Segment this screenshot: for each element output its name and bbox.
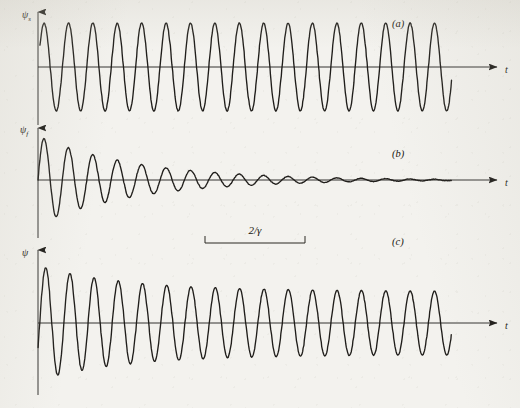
x-axis-label: t: [505, 64, 508, 75]
x-axis-label: t: [505, 320, 508, 331]
y-axis-label-subscript: s: [28, 15, 31, 23]
waveform-curve: [38, 138, 451, 216]
waveform-curve: [38, 268, 451, 375]
oscillation-figure: ψst(a)ψft(b)ψt(c) 2/γ: [0, 0, 520, 408]
panel-tag: (c): [392, 236, 404, 248]
panel-tag: (b): [392, 148, 405, 160]
panels-group: ψst(a)ψft(b)ψt(c): [20, 9, 508, 395]
y-axis-label: ψs: [22, 9, 31, 23]
y-axis-label-subscript: f: [26, 130, 29, 138]
x-axis-label: t: [505, 177, 508, 188]
measure-bracket: [205, 236, 305, 243]
y-axis-label: ψ: [22, 247, 29, 258]
panel-tag: (a): [392, 18, 405, 30]
figure-container: ψst(a)ψft(b)ψt(c) 2/γ: [0, 0, 520, 408]
measure-label: 2/γ: [249, 224, 263, 236]
panel-b: ψft(b): [20, 124, 508, 238]
panel-a: ψst(a): [22, 9, 508, 125]
y-axis-label: ψf: [20, 124, 29, 138]
panel-c: ψt(c): [22, 236, 508, 395]
measure-annotation: 2/γ: [205, 224, 305, 243]
